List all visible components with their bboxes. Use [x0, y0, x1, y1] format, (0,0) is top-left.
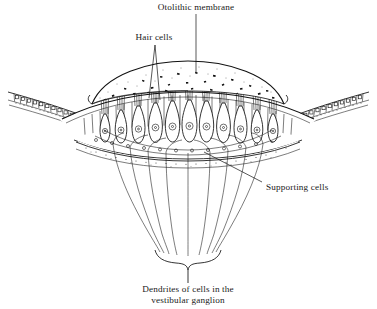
label-otolithic-membrane: Otolithic membrane [158, 2, 234, 12]
label-supporting-cells: Supporting cells [266, 182, 329, 192]
caption-dendrites-line1: Dendrites of cells in the [142, 284, 234, 294]
label-hair-cells: Hair cells [136, 32, 173, 42]
figure-root: Otolithic membrane Hair cells Supporting… [0, 0, 377, 309]
macula-diagram: Otolithic membrane Hair cells Supporting… [0, 0, 377, 309]
caption-dendrites-line2: vestibular ganglion [151, 295, 225, 305]
